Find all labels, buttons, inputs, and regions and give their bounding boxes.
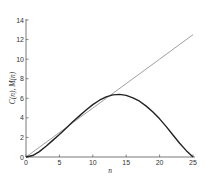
y-tick-label: 2	[20, 134, 24, 141]
y-tick-label: 4	[20, 114, 24, 121]
y-tick-label: 6	[20, 95, 24, 102]
x-axis-label: n	[108, 166, 112, 175]
x-tick-label: 10	[89, 159, 97, 166]
x-tick-label: 0	[24, 159, 28, 166]
x-tick-label: 15	[122, 159, 130, 166]
x-tick-label: 20	[156, 159, 164, 166]
chart: 0510152025 02468101214 n C(n), M(n)	[0, 0, 210, 178]
y-tick-label: 12	[16, 36, 24, 43]
axes: 0510152025 02468101214 n C(n), M(n)	[8, 17, 197, 176]
y-tick-label: 8	[20, 75, 24, 82]
series-m-curve	[26, 94, 193, 157]
y-axis-label: C(n), M(n)	[8, 71, 17, 104]
y-tick-label: 14	[16, 17, 24, 24]
y-tick-label: 10	[16, 56, 24, 63]
x-tick-label: 25	[189, 159, 197, 166]
y-ticks: 02468101214	[16, 17, 28, 161]
x-ticks: 0510152025	[24, 155, 197, 167]
y-tick-label: 0	[20, 154, 24, 161]
x-tick-label: 5	[57, 159, 61, 166]
